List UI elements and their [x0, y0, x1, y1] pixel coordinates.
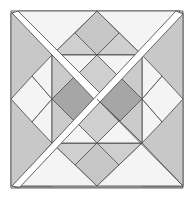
quilt-pattern-figure — [0, 0, 192, 199]
pattern-canvas — [0, 0, 192, 199]
